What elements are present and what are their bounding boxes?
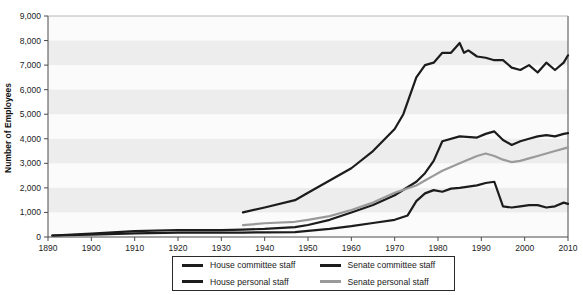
legend-label-senate-personal-staff: Senate personal staff	[348, 277, 429, 287]
line-chart: 01,0002,0003,0004,0005,0006,0007,0008,00…	[0, 0, 583, 295]
x-tick-label: 1890	[39, 243, 58, 253]
x-axis: 1890190019101920193019401950196019701980…	[39, 237, 578, 253]
y-tick-label: 7,000	[20, 60, 42, 70]
x-tick-label: 1930	[212, 243, 231, 253]
y-tick-label: 6,000	[20, 85, 42, 95]
legend-label-house-personal-staff: House personal staff	[210, 277, 289, 287]
legend-label-senate-committee-staff: Senate committee staff	[348, 260, 436, 270]
y-axis: 01,0002,0003,0004,0005,0006,0007,0008,00…	[20, 11, 48, 242]
y-tick-label: 2,000	[20, 183, 42, 193]
legend-item-house-committee-staff: House committee staff	[173, 260, 314, 270]
x-tick-label: 1970	[385, 243, 404, 253]
x-tick-label: 1990	[472, 243, 491, 253]
legend-swatch-house-committee-staff	[182, 264, 203, 267]
y-tick-label: 4,000	[20, 134, 42, 144]
legend-swatch-house-personal-staff	[182, 280, 203, 283]
legend: House committee staff Senate committee s…	[172, 256, 455, 291]
x-tick-label: 1920	[169, 243, 188, 253]
grid-bands	[48, 16, 568, 237]
y-tick-label: 3,000	[20, 158, 42, 168]
y-tick-label: 8,000	[20, 36, 42, 46]
y-tick-label: 9,000	[20, 11, 42, 21]
legend-swatch-senate-committee-staff	[320, 264, 341, 267]
legend-item-house-personal-staff: House personal staff	[173, 277, 314, 287]
legend-swatch-senate-personal-staff	[320, 280, 341, 283]
x-tick-label: 2000	[515, 243, 534, 253]
x-tick-label: 1980	[429, 243, 448, 253]
x-tick-label: 1940	[255, 243, 274, 253]
x-tick-label: 1910	[125, 243, 144, 253]
x-tick-label: 1950	[299, 243, 318, 253]
chart-container: 01,0002,0003,0004,0005,0006,0007,0008,00…	[0, 0, 583, 295]
y-axis-title: Number of Employees	[3, 83, 13, 173]
x-tick-label: 1900	[82, 243, 101, 253]
legend-item-senate-personal-staff: Senate personal staff	[314, 277, 455, 287]
x-tick-label: 2010	[559, 243, 578, 253]
y-tick-label: 0	[36, 232, 41, 242]
legend-item-senate-committee-staff: Senate committee staff	[314, 260, 455, 270]
x-tick-label: 1960	[342, 243, 361, 253]
y-tick-label: 1,000	[20, 207, 42, 217]
y-tick-label: 5,000	[20, 109, 42, 119]
legend-label-house-committee-staff: House committee staff	[210, 260, 295, 270]
